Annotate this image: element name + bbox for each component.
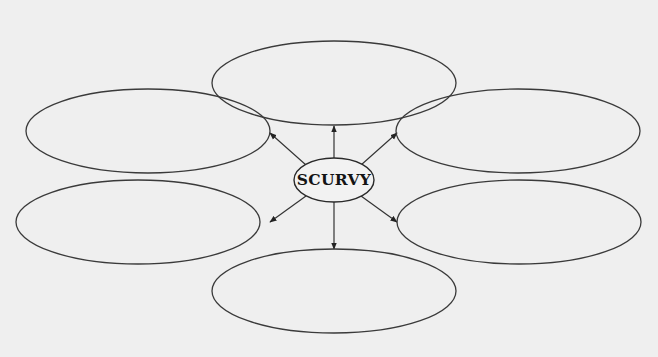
branch-node-lower-right <box>397 180 641 264</box>
center-node-label: SCURVY <box>294 168 374 192</box>
arrow-to-lower-left <box>270 196 306 222</box>
branch-node-upper-left <box>26 89 270 173</box>
arrow-to-upper-right <box>361 133 397 165</box>
arrow-to-lower-right <box>361 196 397 222</box>
branch-node-upper-right <box>396 89 640 173</box>
branch-node-lower-left <box>16 180 260 264</box>
arrow-to-upper-left <box>270 133 306 165</box>
branch-node-bottom <box>212 249 456 333</box>
branch-node-top <box>212 41 456 125</box>
concept-map: SCURVY <box>0 0 658 357</box>
